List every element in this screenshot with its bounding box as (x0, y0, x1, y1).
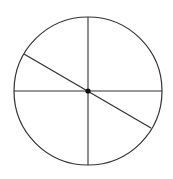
circle-diagram (0, 0, 173, 179)
center-point (85, 88, 90, 93)
